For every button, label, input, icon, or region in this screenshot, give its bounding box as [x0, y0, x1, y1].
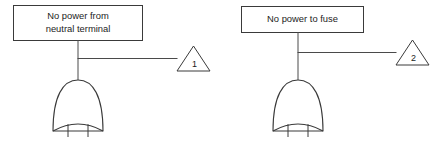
fault-tree-branch-1: No power from neutral terminal 1 [14, 6, 211, 138]
fault-tree-canvas: No power from neutral terminal 1 No powe… [0, 0, 440, 142]
event-box-1-line1: No power from [47, 10, 109, 21]
or-gate-1[interactable] [53, 80, 103, 131]
or-gate-2[interactable] [273, 80, 323, 131]
event-box-2-line1: No power to fuse [267, 13, 338, 24]
transfer-triangle-1-label: 1 [192, 59, 197, 69]
fault-tree-diagram: No power from neutral terminal 1 No powe… [0, 0, 440, 142]
event-box-1-line2: neutral terminal [46, 23, 111, 34]
transfer-triangle-2-label: 2 [411, 53, 416, 63]
fault-tree-branch-2: No power to fuse 2 [242, 7, 430, 138]
